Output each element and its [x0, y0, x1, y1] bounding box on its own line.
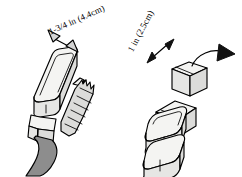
- diagram-illustration: .ln { stroke:#000; stroke-width:1.15; fi…: [0, 0, 242, 177]
- detachable-plug-head: [172, 62, 207, 96]
- diagram-canvas: .ln { stroke:#000; stroke-width:1.15; fi…: [0, 0, 242, 177]
